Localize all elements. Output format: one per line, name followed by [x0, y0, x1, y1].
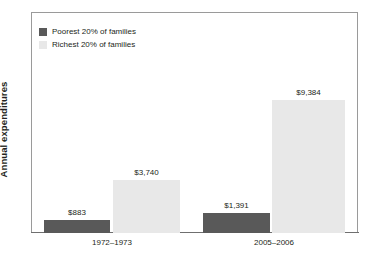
x-tick-label-2005-2006: 2005–2006: [254, 238, 294, 247]
bar-value-richest-1972-1973: $3,740: [134, 168, 158, 177]
x-tick-label-1972-1973: 1972–1973: [92, 238, 132, 247]
bar-poorest-1972-1973: [44, 220, 110, 233]
bar-poorest-2005-2006: [203, 213, 270, 233]
bar-chart-figure: Annual expenditures Poorest 20% of famil…: [0, 0, 374, 259]
bar-richest-1972-1973: [113, 180, 180, 233]
bar-value-poorest-2005-2006: $1,391: [224, 201, 248, 210]
bar-richest-2005-2006: [272, 100, 345, 233]
bars-layer: $883 $3,740 $1,391 $9,384: [0, 0, 374, 233]
bar-value-poorest-1972-1973: $883: [68, 208, 86, 217]
bar-value-richest-2005-2006: $9,384: [296, 88, 320, 97]
